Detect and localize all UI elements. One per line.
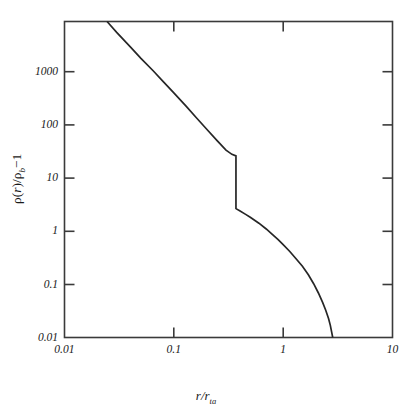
x-axis-ticks-top bbox=[174, 22, 283, 32]
y-axis-title-slash: / bbox=[9, 179, 24, 183]
y-axis-title: ρ(r)/ρb−1 bbox=[9, 99, 27, 259]
y-axis-title-rho-numerator: ρ bbox=[9, 197, 24, 204]
figure-canvas: 1000 100 10 1 0.1 0.01 0.01 0.1 1 10 r/r… bbox=[0, 0, 412, 418]
x-axis-title: r/rta bbox=[0, 388, 412, 406]
y-axis-ticks-left bbox=[65, 72, 75, 285]
x-axis-title-subscript: ta bbox=[210, 396, 217, 406]
density-profile-curve bbox=[107, 22, 333, 338]
y-axis-title-minus: − bbox=[9, 160, 24, 168]
x-tick-label-0.01: 0.01 bbox=[34, 344, 94, 356]
y-tick-label-0.01: 0.01 bbox=[4, 332, 58, 344]
x-tick-label-10: 10 bbox=[363, 344, 412, 356]
y-axis-title-paren-open: ( bbox=[9, 193, 24, 198]
x-axis-ticks-bottom bbox=[174, 328, 283, 338]
y-tick-label-0.1: 0.1 bbox=[4, 279, 58, 291]
y-axis-title-subscript: b bbox=[17, 168, 27, 173]
x-tick-label-0.1: 0.1 bbox=[144, 344, 204, 356]
y-axis-ticks-right bbox=[383, 72, 393, 285]
y-axis-title-rho-denominator: ρ bbox=[9, 173, 24, 180]
y-axis-title-one: 1 bbox=[9, 154, 24, 161]
y-axis-title-r: r bbox=[9, 188, 24, 193]
x-tick-label-1: 1 bbox=[253, 344, 313, 356]
y-tick-label-1000: 1000 bbox=[4, 66, 58, 78]
y-axis-title-paren-close: ) bbox=[9, 183, 24, 188]
plot-frame bbox=[65, 22, 393, 338]
